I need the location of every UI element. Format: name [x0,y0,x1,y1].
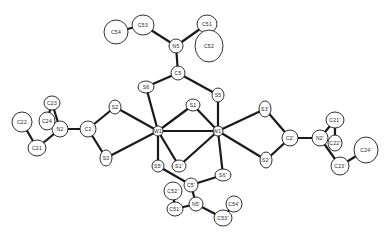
atom-s6p: S6' [215,169,231,181]
atom-label: C22' [329,140,340,146]
atom-s5p: S5' [152,160,164,172]
atom-label: W1 [154,128,162,134]
bond-w1-s3 [106,131,158,158]
atom-c21p: C21' [326,112,344,128]
atom-label: W1' [213,128,222,134]
atom-label: C23' [334,163,345,169]
molecular-structure-diagram: W1W1'S1S1'S5S5'S6S6'C5N5C51C52C53C54C5'N… [0,0,387,238]
atom-label: N5 [173,43,180,49]
atoms-layer: W1W1'S1S1'S5S5'S6S6'C5N5C51C52C53C54C5'N… [12,15,378,226]
atom-c54p: C54' [226,196,242,212]
atom-c24p: C24' [354,137,378,163]
atom-label: S3 [103,155,110,161]
atom-label: C24 [42,118,52,124]
atom-label: C21' [329,117,340,123]
atom-label: S3' [261,106,269,112]
atom-label: C51 [202,21,212,27]
atom-label: S2 [112,104,119,110]
atom-s1: S1 [186,99,200,111]
atom-label: S1 [190,102,197,108]
atom-label: C53' [217,215,228,221]
atom-c24: C24 [39,112,55,130]
atom-label: C54' [228,201,239,207]
atom-c52p: C52' [164,182,182,200]
atom-c2p: C2' [282,130,298,146]
atom-c21: C21 [28,140,46,156]
atom-label: S1' [175,163,183,169]
ortep-plot: W1W1'S1S1'S5S5'S6S6'C5N5C51C52C53C54C5'N… [0,0,387,238]
atom-s2: S2 [109,100,121,114]
atom-label: C24' [360,147,371,153]
atom-c53: C53 [132,15,154,35]
atom-label: N2 [57,126,64,132]
atom-label: C54 [111,29,121,35]
atom-c23p: C23' [331,157,349,175]
atom-label: C53 [138,22,148,28]
atom-c5: C5 [171,66,185,80]
atom-c2: C2 [80,121,96,137]
atom-label: C22 [17,119,27,125]
atom-c5p: C5' [184,178,198,192]
atom-s3p: S3' [259,101,271,117]
atom-n5: N5 [169,39,183,53]
bond-w1p-s2p [218,131,266,160]
atom-w1: W1 [153,126,163,136]
atom-label: C51' [169,206,180,212]
bond-w1p-s3p [218,109,265,131]
atom-s3: S3 [100,150,112,166]
atom-c53p: C53' [214,210,232,226]
atom-label: C2' [286,135,294,141]
atom-label: S5' [154,163,162,169]
atom-c51p: C51' [167,202,183,216]
atom-n5p: N5' [189,197,203,211]
atom-label: C5 [175,70,182,76]
atom-label: C2 [85,126,92,132]
atom-s1p: S1' [172,160,186,172]
bond-w1p-s1p [179,131,218,166]
atom-c54: C54 [104,20,128,44]
atom-s2p: S2' [260,152,272,168]
atom-c22p: C22' [328,135,342,151]
atom-label: C52 [204,43,214,49]
atom-label: S2' [262,157,270,163]
atom-w1p: W1' [213,126,223,136]
atom-c22: C22 [12,112,32,132]
atom-s5: S5 [212,88,224,102]
bond-w1p-s6p [218,131,223,175]
atom-label: C21 [32,145,42,151]
atom-label: N5' [192,201,200,207]
atom-label: S6' [219,172,227,178]
atom-n2p: N2' [312,130,328,146]
atom-label: S6 [143,84,150,90]
atom-label: C23 [47,100,57,106]
atom-label: S5 [215,92,222,98]
atom-c23: C23 [44,96,60,110]
atom-label: C5' [187,182,195,188]
atom-s6: S6 [138,81,154,93]
atom-label: C52' [167,188,178,194]
atom-label: N2' [316,135,324,141]
atom-c52: C52 [195,30,223,62]
